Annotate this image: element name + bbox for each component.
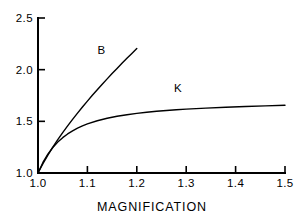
series-group (38, 48, 285, 173)
x-axis-tick-label: 1.1 (79, 177, 96, 189)
series-label-B: B (97, 44, 105, 56)
x-axis-tick-label: 1.0 (29, 177, 46, 189)
series-label-K: K (174, 82, 182, 94)
axes-group (38, 18, 285, 173)
y-axis-tick-label: 1.5 (16, 115, 33, 127)
x-axis-tick-label: 1.3 (178, 177, 195, 189)
x-axis-tick-label: 1.5 (276, 177, 293, 189)
y-axis-tick-label: 2.5 (16, 12, 33, 24)
series-line-B (38, 48, 137, 173)
x-axis-tick-label: 1.4 (227, 177, 244, 189)
chart-axes (38, 18, 285, 173)
x-axis-tick-label: 1.2 (128, 177, 145, 189)
tick-labels-group: 1.01.52.02.51.01.11.21.31.41.5 (16, 12, 294, 189)
ticks-group (38, 18, 285, 173)
y-axis-tick-label: 2.0 (16, 64, 33, 76)
chart-container: 1.01.52.02.51.01.11.21.31.41.5 BK MAGNIF… (0, 0, 302, 220)
series-labels-group: BK (97, 44, 182, 94)
line-chart: 1.01.52.02.51.01.11.21.31.41.5 BK MAGNIF… (0, 0, 302, 220)
x-axis-title: MAGNIFICATION (97, 200, 207, 214)
